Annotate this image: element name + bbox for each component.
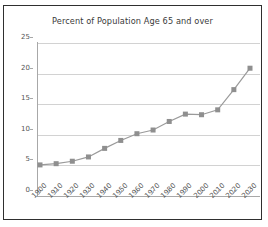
data-point-1940 xyxy=(102,146,107,151)
data-point-2030 xyxy=(248,66,253,71)
data-point-1960 xyxy=(134,131,139,136)
data-point-1910 xyxy=(54,161,59,166)
data-point-2000 xyxy=(199,112,204,117)
data-markers xyxy=(38,66,253,168)
data-point-1920 xyxy=(70,159,75,164)
data-series-layer xyxy=(0,0,268,227)
data-point-1980 xyxy=(167,119,172,124)
data-point-2010 xyxy=(215,107,220,112)
data-point-1930 xyxy=(86,154,91,159)
data-point-2020 xyxy=(231,87,236,92)
data-point-1950 xyxy=(118,138,123,143)
data-point-1970 xyxy=(151,128,156,133)
chart-screenshot: Percent of Population Age 65 and over 25… xyxy=(0,0,268,227)
data-point-1990 xyxy=(183,112,188,117)
data-point-1900 xyxy=(38,162,43,167)
data-line xyxy=(40,68,250,165)
